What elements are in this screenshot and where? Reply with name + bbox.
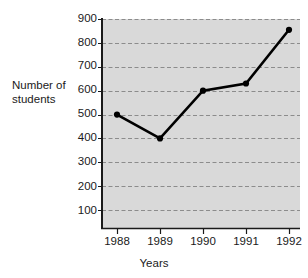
data-point-1990 (200, 88, 206, 94)
data-point-1991 (243, 80, 249, 86)
data-point-1989 (157, 135, 163, 141)
line-chart: Number of students 900 800 700 600 500 4… (0, 0, 308, 278)
plot-area-svg (0, 0, 308, 278)
data-point-1988 (114, 112, 120, 118)
data-point-1992 (286, 27, 292, 33)
